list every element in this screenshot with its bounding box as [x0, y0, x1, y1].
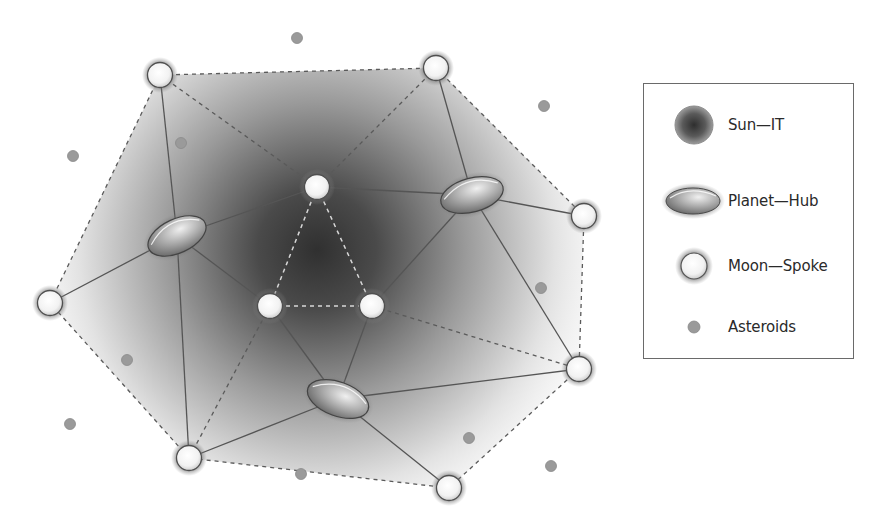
moon-bottom-right — [431, 470, 467, 506]
asteroid-icon — [296, 469, 307, 480]
asteroid-icon — [684, 319, 704, 339]
moon-inner-top — [299, 169, 335, 205]
moon-top-left — [142, 57, 178, 93]
moon-icon — [572, 204, 597, 229]
moon-icon — [258, 294, 283, 319]
moon-right — [566, 198, 602, 234]
asteroid-icon — [536, 283, 547, 294]
asteroid-icon — [176, 138, 187, 149]
moon-lower-right — [561, 351, 597, 387]
legend: Sun—IT Planet—Hub Moon—Spoke Asteroids — [643, 83, 854, 359]
legend-item-planet: Planet—Hub — [644, 181, 853, 221]
moon-inner-left — [252, 288, 288, 324]
sun-icon — [673, 105, 715, 147]
network-diagram: Sun—IT Planet—Hub Moon—Spoke Asteroids — [0, 0, 877, 530]
moon-icon — [148, 63, 173, 88]
legend-item-moon: Moon—Spoke — [644, 246, 853, 286]
legend-item-asteroid: Asteroids — [644, 307, 853, 347]
moon-top-right — [418, 50, 454, 86]
asteroid-icon — [122, 355, 133, 366]
moon-icon — [437, 476, 462, 501]
asteroid-icon — [292, 33, 303, 44]
legend-item-sun: Sun—IT — [644, 105, 853, 145]
moon-icon — [305, 175, 330, 200]
asteroid-icon — [546, 461, 557, 472]
moon-icon — [360, 294, 385, 319]
moon-icon — [38, 291, 63, 316]
moon-bottom-left — [171, 440, 207, 476]
sun-field — [50, 68, 584, 488]
legend-label-planet: Planet—Hub — [728, 191, 818, 211]
moon-left — [32, 285, 68, 321]
legend-label-asteroid: Asteroids — [728, 317, 796, 337]
asteroid-icon — [539, 101, 550, 112]
planet-icon — [660, 181, 730, 223]
asteroid-icon — [68, 151, 79, 162]
legend-label-sun: Sun—IT — [728, 115, 784, 135]
moon-inner-right — [354, 288, 390, 324]
moon-icon — [673, 246, 715, 288]
moon-icon — [567, 357, 592, 382]
asteroid-icon — [65, 419, 76, 430]
asteroid-icon — [464, 433, 475, 444]
moon-icon — [424, 56, 449, 81]
moon-icon — [177, 446, 202, 471]
legend-label-moon: Moon—Spoke — [728, 256, 827, 276]
